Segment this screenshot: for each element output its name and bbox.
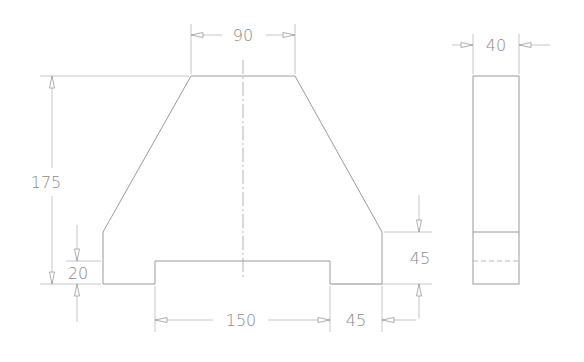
arrow-icon: [417, 284, 422, 296]
dimension-label-top-width: 90: [233, 26, 253, 45]
dimension-label-thickness: 40: [486, 36, 506, 55]
arrow-icon: [519, 43, 531, 48]
arrow-icon: [50, 272, 55, 284]
side-view-outline: [473, 76, 519, 284]
arrow-icon: [417, 220, 422, 232]
arrow-icon: [318, 318, 330, 323]
dimension-overall-height: 175: [31, 76, 189, 284]
front-view-outline: [103, 76, 382, 284]
dimension-shoulder-width: 45: [346, 286, 416, 332]
arrow-icon: [461, 43, 473, 48]
dimension-label-right-step-height: 45: [410, 249, 430, 268]
front-view: [103, 60, 382, 284]
dimension-label-shoulder-width: 45: [346, 311, 366, 330]
dimension-label-side-step-height: 20: [68, 264, 88, 283]
arrow-icon: [50, 76, 55, 88]
dimension-thickness: 40: [452, 34, 550, 74]
arrow-icon: [75, 284, 80, 296]
arrow-icon: [75, 249, 80, 261]
dimension-label-slot-width: 150: [226, 311, 257, 330]
dimension-side-step-height: 20: [66, 225, 101, 322]
arrow-icon: [382, 318, 394, 323]
dimension-label-overall-height: 175: [31, 173, 62, 192]
side-view: [473, 76, 519, 284]
arrow-icon: [283, 33, 295, 38]
technical-drawing: 90 175 20 150 45: [0, 0, 584, 362]
arrow-icon: [191, 33, 203, 38]
arrow-icon: [155, 318, 167, 323]
dimension-slot-width: 150: [155, 286, 330, 332]
